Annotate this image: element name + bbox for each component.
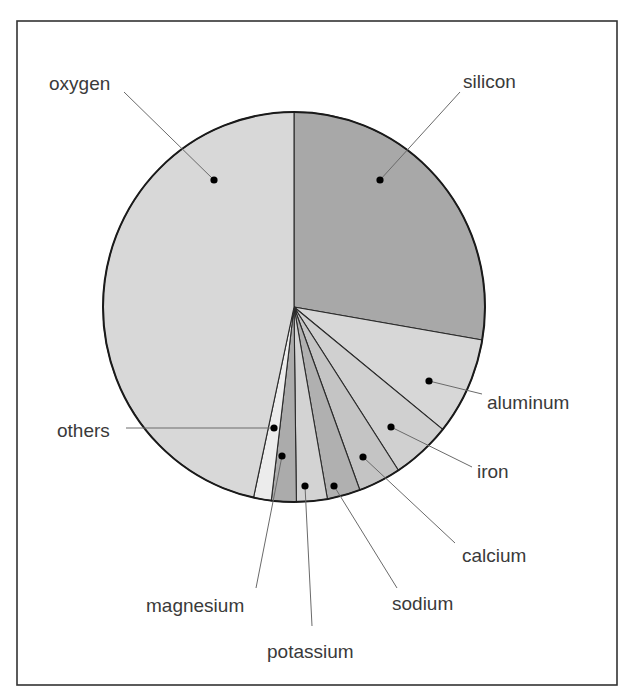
- label-calcium: calcium: [462, 545, 526, 566]
- label-iron: iron: [477, 461, 509, 482]
- label-sodium: sodium: [392, 593, 453, 614]
- label-others: others: [57, 420, 110, 441]
- dot-marker-oxygen: [210, 176, 217, 183]
- dot-marker-calcium: [359, 453, 366, 460]
- slice-oxygen: [103, 112, 294, 498]
- label-oxygen: oxygen: [49, 73, 110, 94]
- label-potassium: potassium: [267, 641, 354, 662]
- pie-chart: siliconaluminumironcalciumsodiumpotassiu…: [0, 0, 631, 696]
- label-magnesium: magnesium: [146, 595, 244, 616]
- leader-line-potassium: [305, 486, 312, 626]
- leader-line-calcium: [363, 457, 455, 543]
- label-silicon: silicon: [463, 71, 516, 92]
- dot-marker-others: [270, 424, 277, 431]
- leader-line-sodium: [334, 486, 397, 588]
- dot-marker-silicon: [376, 176, 383, 183]
- dot-marker-aluminum: [425, 377, 432, 384]
- dot-marker-sodium: [330, 482, 337, 489]
- slice-silicon: [294, 112, 485, 340]
- dot-marker-potassium: [301, 482, 308, 489]
- dot-marker-iron: [387, 423, 394, 430]
- pie-slices: [103, 112, 485, 502]
- label-aluminum: aluminum: [487, 392, 569, 413]
- dot-marker-magnesium: [278, 452, 285, 459]
